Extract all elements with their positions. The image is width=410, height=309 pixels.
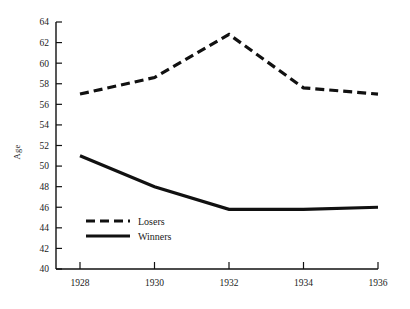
x-tick-label: 1932 [220, 278, 239, 288]
series-winners [80, 156, 378, 210]
x-axis-ticks [80, 262, 378, 269]
legend-label-losers: Losers [138, 216, 165, 227]
y-tick-label: 54 [40, 120, 50, 130]
chart-container: Age 40424446485052545658606264 192819301… [0, 0, 410, 309]
y-tick-label: 46 [40, 203, 50, 213]
series-layer [80, 34, 378, 209]
y-tick-label: 64 [40, 17, 50, 27]
line-chart: Age 40424446485052545658606264 192819301… [0, 0, 410, 309]
x-tick-label: 1930 [145, 278, 164, 288]
y-tick-label: 62 [40, 38, 50, 48]
y-tick-label: 58 [40, 79, 50, 89]
y-axis-ticks [56, 22, 62, 269]
y-tick-label: 60 [40, 59, 50, 69]
x-tick-label: 1936 [369, 278, 388, 288]
x-axis-tick-labels: 19281930193219341936 [71, 278, 388, 288]
y-axis-title: Age [12, 145, 22, 160]
y-tick-label: 40 [40, 264, 50, 274]
x-tick-label: 1928 [71, 278, 90, 288]
legend-label-winners: Winners [138, 231, 172, 242]
y-axis-tick-labels: 40424446485052545658606264 [40, 17, 50, 274]
y-tick-label: 56 [40, 100, 50, 110]
y-tick-label: 44 [40, 223, 50, 233]
x-tick-label: 1934 [294, 278, 313, 288]
y-tick-label: 50 [40, 161, 50, 171]
chart-legend: Losers Winners [86, 216, 172, 242]
series-losers [80, 34, 378, 94]
y-tick-label: 42 [40, 244, 50, 254]
y-tick-label: 52 [40, 141, 50, 151]
y-tick-label: 48 [40, 182, 50, 192]
